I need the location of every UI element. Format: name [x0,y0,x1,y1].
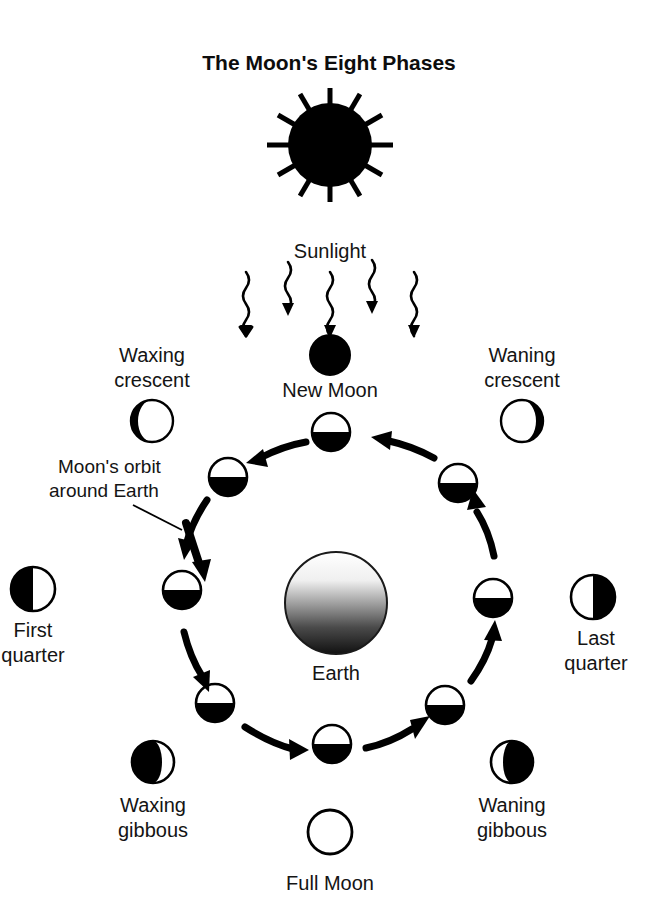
orbit-moon-waxing-crescent [209,458,247,496]
orbit-moon-new-moon [312,413,350,451]
diagram-canvas: The Moon's Eight Phases Sunlight [0,0,659,909]
waning-gibbous-icon [491,741,533,783]
waning-gibbous-label-line1: Waning [478,794,545,816]
last-quarter-label-line2: quarter [564,652,628,674]
diagram-title: The Moon's Eight Phases [202,51,456,74]
full-moon-label: Full Moon [286,872,374,894]
first-quarter-label-line1: First [14,619,53,641]
first-quarter-icon [11,567,55,611]
orbit-annotation-line1: Moon's orbit [58,456,162,477]
waning-crescent-icon [501,400,543,442]
new-moon-icon [310,335,350,375]
last-quarter-icon [571,575,615,619]
orbit-annotation-line2: around Earth [49,480,159,501]
orbit-moon-waxing-gibbous [196,684,234,722]
waxing-crescent-label-line2: crescent [114,369,190,391]
orbit-moon-waning-gibbous [426,686,464,724]
waxing-crescent-icon [131,400,173,442]
waxing-crescent-label-line1: Waxing [119,344,185,366]
waxing-gibbous-label-line1: Waxing [120,794,186,816]
full-moon-icon [308,810,352,854]
waxing-gibbous-icon [132,741,174,783]
moon-phases-diagram: The Moon's Eight Phases Sunlight [0,0,659,909]
waning-gibbous-label-line2: gibbous [477,819,547,841]
orbit-moon-first-quarter [163,571,201,609]
sunlight-label: Sunlight [294,240,367,262]
waning-crescent-label-line1: Waning [488,344,555,366]
first-quarter-label-line2: quarter [1,644,65,666]
sun-disc [288,103,372,187]
last-quarter-label-line1: Last [577,627,615,649]
orbit-moon-full-moon [313,725,351,763]
new-moon-label: New Moon [282,379,378,401]
earth-disc [285,552,387,654]
waning-crescent-label-line2: crescent [484,369,560,391]
earth-label: Earth [312,662,360,684]
waxing-gibbous-label-line2: gibbous [118,819,188,841]
orbit-moon-last-quarter [474,579,512,617]
